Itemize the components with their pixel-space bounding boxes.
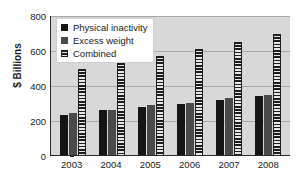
legend-swatch-icon — [61, 24, 68, 31]
x-tick-label: 2003 — [57, 159, 87, 170]
bar-physical-inactivity — [60, 115, 68, 155]
bar-combined — [234, 42, 242, 155]
bar-combined — [117, 63, 125, 155]
y-tick-label: 0 — [22, 151, 46, 162]
bar-excess-weight — [225, 98, 233, 155]
y-tick-label: 400 — [22, 81, 46, 92]
legend-item-combined: Combined — [61, 48, 147, 59]
legend-label: Excess weight — [73, 35, 134, 46]
bar-excess-weight — [69, 113, 77, 155]
x-tick-label: 2006 — [175, 159, 205, 170]
bar-combined — [273, 34, 281, 155]
legend-label: Combined — [73, 48, 116, 59]
bar-excess-weight — [264, 95, 272, 155]
bar-physical-inactivity — [138, 107, 146, 155]
y-axis-title: $ Billions — [12, 21, 23, 111]
bar-physical-inactivity — [255, 96, 263, 155]
bar-excess-weight — [108, 110, 116, 156]
x-tick-label: 2004 — [96, 159, 126, 170]
legend-item-physical-inactivity: Physical inactivity — [61, 22, 147, 33]
legend-label: Physical inactivity — [73, 22, 147, 33]
bar-physical-inactivity — [99, 110, 107, 155]
y-axis-tick-labels: 0200400600800 — [22, 12, 46, 160]
bar-group-2008 — [255, 16, 281, 155]
bar-combined — [195, 49, 203, 155]
bar-chart: $ Billions 0200400600800 200320042005200… — [0, 0, 306, 181]
x-axis-tick-labels: 200320042005200620072008 — [50, 159, 290, 170]
x-tick-label: 2008 — [253, 159, 283, 170]
y-tick-mark — [70, 156, 74, 157]
y-tick-label: 200 — [22, 116, 46, 127]
bar-combined — [156, 56, 164, 155]
bar-excess-weight — [147, 105, 155, 155]
legend-swatch-icon — [61, 50, 68, 57]
bar-physical-inactivity — [177, 104, 185, 155]
x-tick-label: 2007 — [214, 159, 244, 170]
bar-combined — [78, 69, 86, 155]
legend-item-excess-weight: Excess weight — [61, 35, 147, 46]
bar-physical-inactivity — [216, 100, 224, 155]
bar-group-2007 — [216, 16, 242, 155]
bar-group-2006 — [177, 16, 203, 155]
bar-excess-weight — [186, 103, 194, 156]
chart-legend: Physical inactivity Excess weight Combin… — [56, 18, 154, 63]
x-tick-label: 2005 — [135, 159, 165, 170]
y-tick-label: 600 — [22, 46, 46, 57]
legend-swatch-icon — [61, 37, 68, 44]
y-tick-label: 800 — [22, 11, 46, 22]
